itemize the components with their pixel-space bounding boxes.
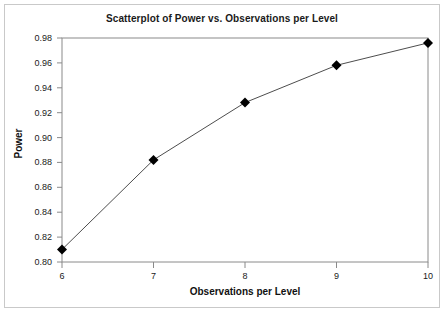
y-axis-ticks: [57, 38, 62, 262]
x-tick-label: 9: [325, 271, 349, 281]
x-axis-ticks: [62, 262, 428, 268]
y-tick-label: 0.88: [22, 157, 52, 167]
y-tick-label: 0.82: [22, 232, 52, 242]
data-points: [57, 38, 433, 255]
data-point: [240, 98, 250, 108]
x-tick-label: 10: [416, 271, 440, 281]
x-tick-label: 7: [142, 271, 166, 281]
plot-frame: [62, 38, 428, 262]
y-tick-label: 0.98: [22, 33, 52, 43]
data-line: [62, 43, 428, 250]
plot-area: [0, 0, 444, 312]
data-point: [423, 38, 433, 48]
y-tick-label: 0.84: [22, 207, 52, 217]
y-axis-title: Power: [13, 114, 24, 174]
y-tick-label: 0.80: [22, 257, 52, 267]
chart-figure: Scatterplot of Power vs. Observations pe…: [0, 0, 444, 312]
y-tick-label: 0.92: [22, 108, 52, 118]
y-tick-label: 0.96: [22, 58, 52, 68]
x-axis-title: Observations per Level: [62, 286, 428, 297]
x-tick-label: 8: [233, 271, 257, 281]
x-tick-label: 6: [50, 271, 74, 281]
y-tick-label: 0.90: [22, 133, 52, 143]
data-point: [332, 60, 342, 70]
y-tick-label: 0.86: [22, 182, 52, 192]
y-tick-label: 0.94: [22, 83, 52, 93]
